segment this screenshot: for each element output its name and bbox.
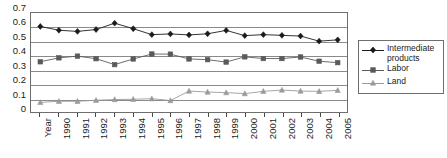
data-point	[261, 32, 266, 38]
data-point	[335, 60, 340, 65]
legend-item[interactable]: Labor	[361, 64, 441, 76]
x-tick-label: 1997	[193, 118, 203, 139]
data-point	[57, 56, 62, 61]
x-tick-label: 2003	[305, 118, 315, 139]
x-axis: Year199019911992199319941995199619971998…	[30, 118, 348, 158]
data-point	[168, 52, 173, 57]
x-tick	[264, 113, 265, 117]
x-tick-label: 1992	[99, 118, 109, 139]
data-point	[94, 56, 99, 61]
data-point	[150, 52, 155, 57]
data-point	[38, 60, 43, 65]
legend-label: Labor	[385, 64, 409, 74]
legend-label: Intermediate products	[385, 44, 441, 63]
data-point	[38, 23, 43, 29]
y-tick-label: 0.5	[13, 32, 26, 42]
y-tick-label: 0.6	[13, 18, 26, 28]
data-point	[224, 60, 229, 65]
data-point	[112, 20, 117, 26]
data-point	[112, 62, 117, 67]
x-tick-label: Year	[43, 118, 53, 137]
data-point	[149, 32, 154, 38]
data-point	[261, 56, 266, 61]
x-tick	[77, 113, 78, 117]
x-tick	[283, 113, 284, 117]
data-point	[56, 27, 61, 33]
x-tick	[39, 113, 40, 117]
chart-legend: Intermediate productsLaborLand	[358, 40, 444, 94]
x-tick-label: 1993	[118, 118, 128, 139]
data-point	[93, 27, 98, 33]
y-axis: 0.70.60.50.40.30.20.10	[0, 8, 26, 113]
x-tick	[208, 113, 209, 117]
x-tick-label: 1996	[174, 118, 184, 139]
x-tick	[301, 113, 302, 117]
x-tick	[152, 113, 153, 117]
series-labor	[38, 52, 340, 67]
x-tick	[226, 113, 227, 117]
x-tick-label: 1991	[81, 118, 91, 139]
x-axis-ticks	[30, 113, 348, 117]
data-point	[224, 27, 229, 33]
data-point	[279, 32, 284, 38]
data-point	[205, 57, 210, 62]
data-point	[335, 37, 340, 43]
legend-marker-icon	[361, 45, 385, 56]
x-tick-label: 2000	[249, 118, 259, 139]
x-tick	[189, 113, 190, 117]
data-point	[242, 55, 247, 60]
x-tick-label: 2004	[324, 118, 334, 139]
data-point	[317, 59, 322, 64]
data-point	[205, 31, 210, 37]
data-point	[168, 31, 173, 37]
x-tick-label: 2002	[287, 118, 297, 139]
x-tick-label: 2005	[343, 118, 353, 139]
data-point	[186, 32, 191, 38]
x-tick-label: 2001	[268, 118, 278, 139]
x-tick	[95, 113, 96, 117]
y-tick-label: 0.3	[13, 61, 26, 71]
series-land	[38, 87, 341, 104]
data-point	[131, 26, 136, 32]
series-intermediate-products	[38, 20, 341, 44]
x-tick	[114, 113, 115, 117]
legend-marker-icon	[361, 65, 385, 76]
data-point	[131, 57, 136, 62]
y-tick-label: 0	[21, 104, 26, 114]
data-point	[280, 56, 285, 61]
data-point	[298, 33, 303, 39]
y-tick-label: 0.2	[13, 75, 26, 85]
line-chart: 0.70.60.50.40.30.20.10 Year1990199119921…	[0, 0, 447, 158]
x-tick-label: 1994	[137, 118, 147, 139]
x-tick	[133, 113, 134, 117]
x-tick-label: 1998	[212, 118, 222, 139]
data-point	[75, 28, 80, 34]
legend-label: Land	[385, 77, 406, 87]
data-point	[317, 38, 322, 44]
x-tick	[339, 113, 340, 117]
y-tick-label: 0.4	[13, 47, 26, 57]
x-tick-label: 1995	[156, 118, 166, 139]
x-tick	[170, 113, 171, 117]
x-tick	[320, 113, 321, 117]
data-point	[75, 54, 80, 59]
data-point	[187, 57, 192, 62]
plot-area	[30, 12, 348, 113]
x-tick	[245, 113, 246, 117]
data-point	[298, 55, 303, 60]
x-tick	[58, 113, 59, 117]
legend-item[interactable]: Intermediate products	[361, 44, 441, 63]
x-tick-label: 1999	[230, 118, 240, 139]
series-layer	[31, 13, 347, 112]
y-tick-label: 0.7	[13, 3, 26, 13]
y-tick-label: 0.1	[13, 90, 26, 100]
data-point	[242, 33, 247, 39]
legend-marker-icon	[361, 78, 385, 89]
x-tick-label: 1990	[62, 118, 72, 139]
legend-item[interactable]: Land	[361, 77, 441, 89]
